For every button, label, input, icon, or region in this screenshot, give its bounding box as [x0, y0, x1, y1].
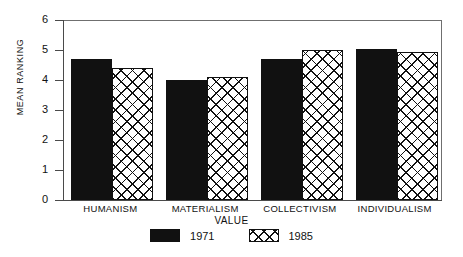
- bars-layer: [63, 20, 442, 200]
- legend-item-1985: 1985: [249, 229, 313, 242]
- y-axis-tick-label: 1: [30, 164, 48, 175]
- x-axis-line: [56, 200, 442, 201]
- y-axis-tick-mark: [55, 200, 64, 201]
- legend-swatch-1971: [150, 229, 180, 242]
- category-label-humanism: HUMANISM: [63, 203, 158, 214]
- legend-swatch-1985: [249, 229, 279, 242]
- legend-item-1971: 1971: [150, 229, 214, 242]
- y-axis-tick-label: 6: [30, 14, 48, 25]
- y-axis-tick-label: 4: [30, 74, 48, 85]
- y-axis-tick-label: 2: [30, 134, 48, 145]
- y-axis-tick-label: 5: [30, 44, 48, 55]
- y-axis-title: MEAN RANKING: [15, 21, 25, 133]
- bar-humanism-1985: [112, 68, 153, 200]
- legend-label-1971: 1971: [190, 230, 214, 242]
- category-label-collectivism: COLLECTIVISM: [253, 203, 348, 214]
- bar-materialism-1985: [207, 77, 248, 200]
- chart-legend: 19711985: [0, 229, 463, 242]
- category-label-materialism: MATERIALISM: [158, 203, 253, 214]
- bar-individualism-1971: [356, 49, 397, 201]
- bar-humanism-1971: [71, 59, 112, 200]
- bar-collectivism-1985: [302, 50, 343, 200]
- y-axis-tick-label: 3: [30, 104, 48, 115]
- y-axis-tick-label: 0: [30, 194, 48, 205]
- bar-materialism-1971: [166, 80, 207, 200]
- bar-chart: MEAN RANKING 0123456 HUMANISMMATERIALISM…: [0, 0, 463, 257]
- legend-label-1985: 1985: [289, 230, 313, 242]
- category-label-individualism: INDIVIDUALISM: [347, 203, 442, 214]
- bar-individualism-1985: [397, 52, 438, 201]
- x-axis-title: VALUE: [0, 215, 463, 226]
- bar-collectivism-1971: [261, 59, 302, 200]
